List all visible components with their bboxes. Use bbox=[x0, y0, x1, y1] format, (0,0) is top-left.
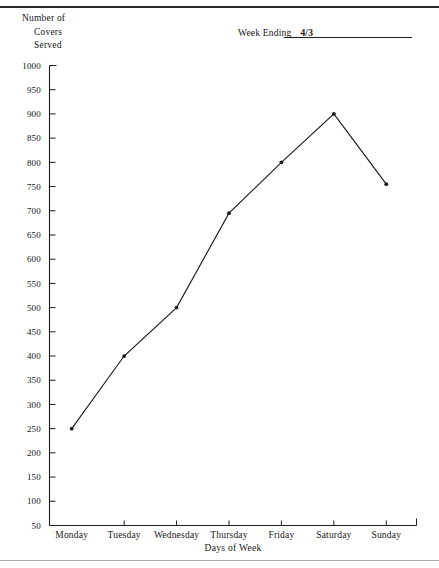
x-axis-tick-label: Saturday bbox=[316, 530, 351, 540]
y-axis-tick-label: 500 bbox=[27, 303, 41, 313]
y-axis-tick-label: 900 bbox=[27, 109, 41, 119]
y-axis-tick-label: 850 bbox=[27, 133, 41, 143]
y-axis-tick-label: 550 bbox=[27, 279, 41, 289]
y-axis-tick-label: 800 bbox=[27, 158, 41, 168]
y-axis-tick-labels: 1000950900850800750700650600550500450400… bbox=[22, 61, 41, 531]
x-axis-title: Days of Week bbox=[204, 543, 261, 553]
y-axis-tick-label: 1000 bbox=[22, 61, 41, 71]
y-axis-tick-label: 250 bbox=[27, 424, 41, 434]
y-axis-tick-label: 400 bbox=[27, 351, 41, 361]
y-axis-tick-label: 200 bbox=[27, 448, 41, 458]
y-axis-ticks bbox=[50, 90, 56, 502]
y-axis-tick-label: 650 bbox=[27, 230, 41, 240]
y-axis-tick-label: 750 bbox=[27, 182, 41, 192]
x-axis-ticks bbox=[124, 521, 386, 526]
x-axis-tick-label: Thursday bbox=[210, 530, 248, 540]
data-point bbox=[175, 306, 179, 310]
x-axis-tick-label: Sunday bbox=[371, 530, 401, 540]
y-axis-tick-label: 350 bbox=[27, 375, 41, 385]
x-axis-tick-label: Monday bbox=[55, 530, 88, 540]
series-line-covers-served bbox=[72, 114, 387, 429]
data-point bbox=[332, 112, 336, 116]
data-point bbox=[227, 211, 231, 215]
data-point bbox=[70, 427, 74, 431]
y-axis-tick-label: 950 bbox=[27, 85, 41, 95]
y-axis-tick-label: 700 bbox=[27, 206, 41, 216]
page-bottom-rule bbox=[0, 560, 439, 561]
y-axis-tick-label: 450 bbox=[27, 327, 41, 337]
y-axis-tick-label: 300 bbox=[27, 400, 41, 410]
x-axis-tick-label: Wednesday bbox=[154, 530, 199, 540]
line-chart: 1000950900850800750700650600550500450400… bbox=[0, 0, 439, 568]
data-point bbox=[384, 182, 388, 186]
y-axis-tick-label: 150 bbox=[27, 472, 41, 482]
y-axis-tick-label: 50 bbox=[32, 521, 42, 531]
y-axis-tick-label: 100 bbox=[27, 496, 41, 506]
data-point bbox=[280, 160, 284, 164]
y-axis-tick-label: 600 bbox=[27, 254, 41, 264]
data-point bbox=[122, 354, 126, 358]
x-axis-tick-label: Tuesday bbox=[108, 530, 141, 540]
x-axis-tick-label: Friday bbox=[268, 530, 294, 540]
x-axis-tick-labels: MondayTuesdayWednesdayThursdayFridaySatu… bbox=[55, 530, 401, 540]
series-group bbox=[70, 112, 388, 431]
